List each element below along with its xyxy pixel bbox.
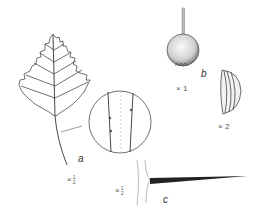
scale-label-b: × 1 — [176, 84, 187, 93]
botanical-plate — [0, 0, 257, 217]
leader-line — [61, 126, 82, 132]
scale-label-c: ×12 — [115, 186, 123, 196]
scale-label-nutlet: × 2 — [218, 122, 229, 131]
part-label-a: a — [78, 153, 84, 164]
thorn-illustration — [137, 160, 248, 205]
part-label-c: c — [163, 194, 168, 205]
part-label-b: b — [201, 68, 207, 79]
nutlet-illustration — [221, 70, 241, 114]
petiole-detail-circle — [89, 91, 151, 153]
fruit-illustration — [167, 8, 199, 66]
scale-label-a: ×12 — [67, 175, 75, 185]
leaf-illustration — [19, 34, 90, 165]
